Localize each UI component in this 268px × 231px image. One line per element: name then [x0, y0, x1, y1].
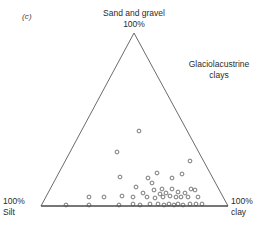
data-point: [146, 176, 150, 180]
data-point: [196, 195, 200, 199]
data-point: [134, 185, 138, 189]
data-point: [118, 175, 122, 179]
ternary-diagram-figure: (c) Sand and gravel 100% Glaciolacustrin…: [0, 0, 268, 231]
data-point: [160, 187, 164, 191]
data-point: [141, 191, 145, 195]
data-point: [189, 187, 193, 191]
triangle-frame: [41, 33, 228, 206]
data-point: [193, 188, 197, 192]
data-point: [137, 129, 141, 133]
ternary-plot-area: [0, 0, 268, 231]
data-point: [115, 150, 119, 154]
data-point: [155, 171, 159, 175]
data-point: [188, 159, 192, 163]
data-point: [164, 191, 168, 195]
data-point: [150, 181, 154, 185]
data-point: [168, 194, 172, 198]
triangle-edge-left: [41, 33, 134, 206]
data-point: [161, 195, 165, 199]
data-point: [120, 194, 124, 198]
data-point: [174, 195, 178, 199]
data-point: [145, 195, 149, 199]
data-point: [87, 195, 91, 199]
data-point: [153, 196, 157, 200]
data-point: [131, 195, 135, 199]
data-point: [180, 172, 184, 176]
data-point: [170, 176, 174, 180]
data-point: [186, 195, 190, 199]
data-points-layer: [64, 129, 204, 207]
data-point: [102, 195, 106, 199]
data-point: [158, 192, 162, 196]
data-point: [183, 191, 187, 195]
data-point: [179, 195, 183, 199]
data-point: [170, 187, 174, 191]
data-point: [152, 188, 156, 192]
data-point: [176, 190, 180, 194]
